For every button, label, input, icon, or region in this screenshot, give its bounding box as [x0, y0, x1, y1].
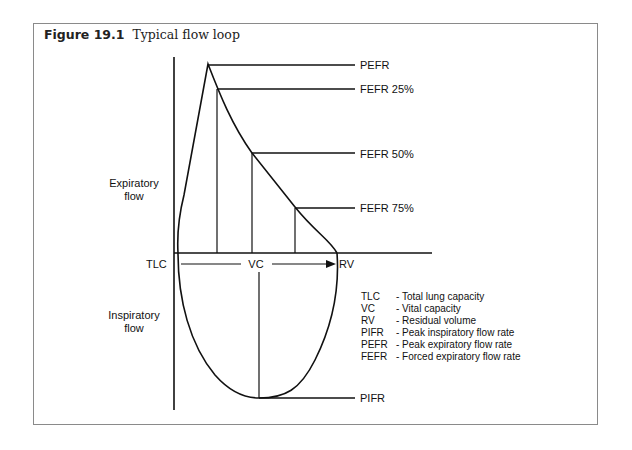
vc-label: VC — [248, 258, 263, 270]
tlc-label: TLC — [146, 258, 167, 270]
legend-desc: - Peak inspiratory flow rate — [396, 327, 515, 338]
legend-desc: - Total lung capacity — [396, 291, 484, 302]
y-upper-label-2: flow — [124, 190, 144, 202]
legend-desc: - Vital capacity — [396, 303, 461, 314]
y-lower-label-2: flow — [124, 322, 144, 334]
inspiratory-curve — [178, 253, 338, 398]
legend-abbr: RV — [361, 315, 375, 326]
rv-label: RV — [339, 258, 355, 270]
legend-desc: - Residual volume — [396, 315, 476, 326]
flow-loop-diagram: Expiratory flow Inspiratory flow TLC RV … — [0, 0, 632, 450]
legend-abbr: VC — [361, 303, 375, 314]
legend-abbr: FEFR — [361, 351, 387, 362]
expiratory-curve — [178, 64, 337, 253]
vc-arrowhead-icon — [326, 260, 336, 268]
legend-desc: - Peak expiratory flow rate — [396, 339, 513, 350]
legend-desc: - Forced expiratory flow rate — [396, 351, 521, 362]
legend-abbr: PEFR — [361, 339, 388, 350]
pefr-label: PEFR — [360, 59, 389, 71]
fefr25-label: FEFR 25% — [360, 83, 414, 95]
legend-abbr: TLC — [361, 291, 380, 302]
pifr-label: PIFR — [360, 392, 385, 404]
y-lower-label-1: Inspiratory — [108, 309, 160, 321]
legend-abbr: PIFR — [361, 327, 384, 338]
fefr50-label: FEFR 50% — [360, 148, 414, 160]
y-upper-label-1: Expiratory — [109, 177, 159, 189]
fefr75-label: FEFR 75% — [360, 202, 414, 214]
legend: TLC - Total lung capacity VC - Vital cap… — [361, 291, 521, 362]
